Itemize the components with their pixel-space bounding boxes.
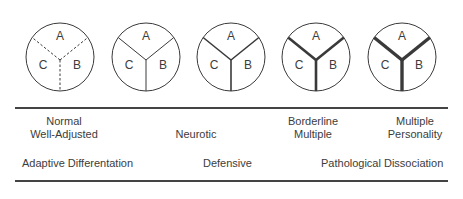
region-label-c: C bbox=[125, 58, 134, 72]
region-label-b: B bbox=[244, 58, 252, 72]
partition-line bbox=[60, 37, 88, 60]
category-borderline-line1: Borderline bbox=[273, 115, 353, 128]
category-normal-line2: Well-Adjusted bbox=[24, 128, 104, 141]
personality-circle-2: ABC bbox=[112, 23, 180, 91]
personality-circle-3: ABC bbox=[197, 23, 265, 91]
region-label-c: C bbox=[39, 58, 48, 72]
top-divider bbox=[15, 107, 448, 109]
region-label-b: B bbox=[415, 58, 423, 72]
category-multiple-personality: Multiple Personality bbox=[375, 115, 455, 141]
personality-circle-4: ABC bbox=[282, 23, 350, 91]
category-neurotic-label: Neurotic bbox=[156, 128, 236, 141]
category-normal-line1: Normal bbox=[24, 115, 104, 128]
region-label-b: B bbox=[159, 58, 167, 72]
category-multiple-line1: Multiple bbox=[375, 115, 455, 128]
region-label-b: B bbox=[73, 58, 81, 72]
region-label-a: A bbox=[142, 29, 150, 43]
region-label-c: C bbox=[295, 58, 304, 72]
region-label-a: A bbox=[312, 29, 320, 43]
partition-line bbox=[316, 37, 344, 60]
partition-line bbox=[231, 37, 259, 60]
category-borderline-line2: Multiple bbox=[273, 128, 353, 141]
region-label-b: B bbox=[329, 58, 337, 72]
partition-line bbox=[146, 37, 174, 60]
category-multiple-line2: Personality bbox=[375, 128, 455, 141]
bottom-divider bbox=[15, 180, 448, 182]
region-label-a: A bbox=[398, 29, 406, 43]
region-label-a: A bbox=[56, 29, 64, 43]
personality-circle-1: ABC bbox=[26, 23, 94, 91]
continuum-adaptive: Adaptive Differentation bbox=[22, 157, 133, 170]
region-label-a: A bbox=[227, 29, 235, 43]
category-borderline: Borderline Multiple bbox=[273, 115, 353, 141]
region-label-c: C bbox=[210, 58, 219, 72]
category-normal: Normal Well-Adjusted bbox=[24, 115, 104, 141]
continuum-pathological: Pathological Dissociation bbox=[321, 157, 443, 170]
partition-line bbox=[402, 37, 430, 60]
category-neurotic: Neurotic bbox=[156, 128, 236, 141]
region-label-c: C bbox=[381, 58, 390, 72]
continuum-defensive: Defensive bbox=[203, 157, 252, 170]
personality-circle-5: ABC bbox=[368, 23, 436, 91]
